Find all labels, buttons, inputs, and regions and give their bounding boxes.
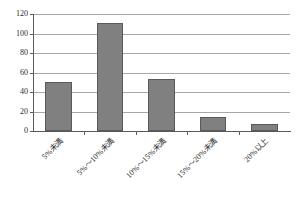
bar xyxy=(200,117,227,131)
bar xyxy=(148,79,175,131)
x-axis-category-label: 5%未満 xyxy=(18,136,65,183)
bar xyxy=(45,82,72,131)
x-axis-category-label: 15%～20%未満 xyxy=(172,136,219,183)
bar xyxy=(251,124,278,131)
x-axis-category-label: 10%～15%未満 xyxy=(120,136,167,183)
bars-group xyxy=(33,14,290,131)
y-axis-tick-label: 20 xyxy=(0,108,28,116)
x-axis-category-label: 20%以上 xyxy=(223,136,270,183)
x-axis-line xyxy=(33,131,291,132)
x-axis-category-label: 5%～10%未満 xyxy=(69,136,116,183)
x-axis-tick-mark xyxy=(136,131,137,135)
x-axis-tick-mark xyxy=(84,131,85,135)
y-axis-tick-label: 60 xyxy=(0,69,28,77)
y-axis-tick-label: 120 xyxy=(0,10,28,18)
y-axis-tick-label: 0 xyxy=(0,127,28,135)
y-axis-tick-label: 40 xyxy=(0,88,28,96)
chart-title xyxy=(0,0,302,3)
y-axis-tick-label: 80 xyxy=(0,49,28,57)
x-axis-tick-mark xyxy=(239,131,240,135)
x-axis-tick-mark xyxy=(187,131,188,135)
y-axis-tick-label: 100 xyxy=(0,30,28,38)
bar xyxy=(97,23,124,131)
bar-chart: 120100806040200 5%未満5%～10%未満10%～15%未満15%… xyxy=(0,0,302,197)
